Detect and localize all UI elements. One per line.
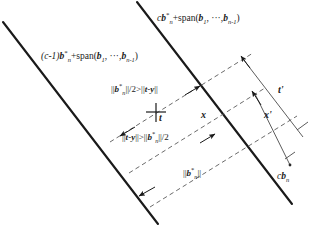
norm-star: * bbox=[191, 166, 194, 173]
t-prime-span-line bbox=[243, 59, 303, 137]
dashed-line-bn bbox=[150, 116, 297, 207]
x-prime-label: x' bbox=[264, 110, 272, 120]
lower-plane-sub2: n-1 bbox=[126, 56, 135, 63]
ineq-up-tailclose: || bbox=[154, 84, 158, 94]
diagram-canvas bbox=[0, 0, 327, 226]
lower-plane-label: (c-1)b*n+span(b1, ···,bn-1) bbox=[41, 50, 138, 64]
arrow-to-upper-plane-x bbox=[200, 134, 215, 143]
upper-plane-sub2: n-1 bbox=[228, 18, 237, 25]
anchor-dots bbox=[289, 164, 292, 167]
t-prime-arrow-head bbox=[241, 56, 250, 68]
upper-inequality-label: ||b*n||/2>||t-y|| bbox=[111, 83, 158, 96]
lower-plane-plus: +span( bbox=[71, 51, 97, 61]
dashed-construction-lines bbox=[110, 53, 297, 207]
ineq-lo-star: * bbox=[152, 130, 155, 137]
bn-norm-label: ||b*n|| bbox=[183, 167, 201, 180]
anchor-dot-x-prime-end bbox=[289, 164, 292, 167]
t-prime-tick-bottom bbox=[297, 122, 308, 130]
upper-hyperplane-line bbox=[137, 2, 292, 204]
upper-plane-close: ) bbox=[237, 13, 240, 23]
point-t-label: t bbox=[159, 113, 162, 123]
lower-plane-close: ) bbox=[135, 51, 138, 61]
arrow-to-lower-plane-lower bbox=[139, 187, 155, 196]
measure-x-prime bbox=[252, 91, 295, 165]
point-t-cross-marker bbox=[146, 103, 166, 122]
x-prime-tick-bottom bbox=[285, 152, 295, 159]
ineq-up-mid: ||/2 bbox=[125, 84, 136, 94]
cbn-label: cbn bbox=[277, 172, 289, 183]
lattice-diagram-figure: cb*n+span(b1, ···,bn-1) (c-1)b*n+span(b1… bbox=[0, 0, 327, 226]
cbn-sub: n bbox=[286, 176, 289, 183]
lower-plane-coef: (c-1) bbox=[41, 51, 59, 61]
upper-plane-star: * bbox=[166, 11, 169, 18]
upper-plane-sep: , ···, bbox=[207, 13, 224, 23]
ineq-lo-tailclose: ||/2 bbox=[158, 132, 169, 142]
norm-close: || bbox=[197, 168, 201, 178]
upper-plane-plus: +span( bbox=[173, 13, 199, 23]
ineq-up-star: * bbox=[119, 82, 122, 89]
t-prime-label: t' bbox=[278, 85, 284, 95]
lower-inequality-label: ||t-y||>||b*n||/2 bbox=[122, 131, 169, 144]
arrow-to-upper-plane-t bbox=[185, 86, 200, 95]
lower-plane-star: * bbox=[64, 49, 67, 56]
upper-plane-label: cb*n+span(b1, ···,bn-1) bbox=[157, 12, 240, 26]
point-x-label: x bbox=[201, 110, 206, 120]
lower-plane-sep: , ···, bbox=[105, 51, 122, 61]
measure-t-prime bbox=[241, 56, 308, 137]
